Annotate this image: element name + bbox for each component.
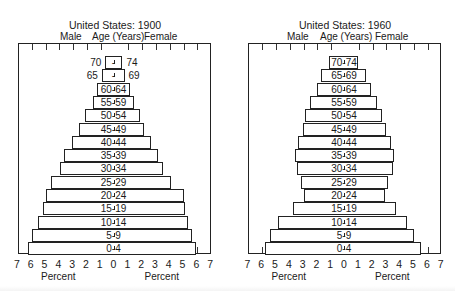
x-tick-label: 4 xyxy=(392,258,406,270)
x-tick-label: 0 xyxy=(107,258,121,270)
tick xyxy=(276,44,277,50)
cropped-caption xyxy=(0,286,455,291)
x-tick-label: 2 xyxy=(365,258,379,270)
age-label: 15-19 xyxy=(314,202,374,215)
age-header: Age (Years) xyxy=(320,31,372,42)
x-axis-label-male: Percent xyxy=(259,271,319,282)
age-label: 10-14 xyxy=(314,216,374,229)
female-header: Female xyxy=(144,31,177,42)
age-label: 55-59 xyxy=(84,96,144,109)
x-tick-label: 1 xyxy=(323,258,337,270)
population-pyramid-1960: United States: 1960MaleAge (Years)Female… xyxy=(230,0,455,291)
x-tick-label: 6 xyxy=(420,258,434,270)
x-tick-label: 3 xyxy=(148,258,162,270)
population-pyramid-1900: United States: 1900MaleAge (Years)Female… xyxy=(0,0,230,291)
tick xyxy=(317,44,318,50)
tick xyxy=(400,44,401,50)
tick xyxy=(262,44,263,50)
x-tick-label: 1 xyxy=(120,258,134,270)
age-label: 30-34 xyxy=(314,162,374,175)
chart-title: United States: 1960 xyxy=(230,19,455,31)
x-tick-label: 7 xyxy=(203,258,217,270)
age-label: 45-49 xyxy=(314,123,374,136)
tick xyxy=(197,44,198,50)
age-label: 15-19 xyxy=(84,202,144,215)
tick xyxy=(128,44,129,50)
age-label: 25-29 xyxy=(84,176,144,189)
female-header: Female xyxy=(375,31,408,42)
age-end-label: 69 xyxy=(129,69,140,82)
age-label: 40-44 xyxy=(84,136,144,149)
tick xyxy=(428,247,429,253)
tick xyxy=(142,44,143,50)
x-tick-label: 4 xyxy=(162,258,176,270)
x-tick-label: 3 xyxy=(65,258,79,270)
tick xyxy=(304,44,305,50)
x-tick-label: 1 xyxy=(351,258,365,270)
age-label: 10-14 xyxy=(84,216,144,229)
male-header: Male xyxy=(60,31,82,42)
tick xyxy=(359,44,360,50)
age-label: 20-24 xyxy=(314,189,374,202)
x-tick-label: 5 xyxy=(176,258,190,270)
x-tick-label: 6 xyxy=(189,258,203,270)
x-tick-label: 5 xyxy=(268,258,282,270)
tick xyxy=(156,44,157,50)
age-label: 5-9 xyxy=(314,229,374,242)
tick xyxy=(428,44,429,50)
tick xyxy=(373,44,374,50)
age-label: 0-4 xyxy=(84,242,144,255)
age-label: 35-39 xyxy=(84,149,144,162)
x-axis-label-male: Percent xyxy=(28,271,88,282)
x-tick-label: 1 xyxy=(93,258,107,270)
x-tick-label: 2 xyxy=(134,258,148,270)
age-label: 55-59 xyxy=(314,96,374,109)
tick xyxy=(73,44,74,50)
x-tick-label: 5 xyxy=(38,258,52,270)
age-start-label: 65 xyxy=(87,69,98,82)
tick xyxy=(101,44,102,50)
x-tick-label: 4 xyxy=(282,258,296,270)
age-label: 45-49 xyxy=(84,123,144,136)
x-tick-label: 6 xyxy=(24,258,38,270)
tick xyxy=(414,44,415,50)
age-label: 20-24 xyxy=(84,189,144,202)
x-tick-label: 0 xyxy=(337,258,351,270)
age-label: 5-9 xyxy=(84,229,144,242)
age-header: Age (Years) xyxy=(92,31,144,42)
age-label: 50-54 xyxy=(84,109,144,122)
age-label: 30-34 xyxy=(84,162,144,175)
x-tick-label: 3 xyxy=(296,258,310,270)
age-label: 70-74 xyxy=(314,56,374,69)
x-tick-label: 7 xyxy=(434,258,448,270)
x-tick-label: 6 xyxy=(254,258,268,270)
x-tick-label: 5 xyxy=(406,258,420,270)
age-label: 35-39 xyxy=(314,149,374,162)
tick xyxy=(32,44,33,50)
male-header: Male xyxy=(287,31,309,42)
x-tick-label: 4 xyxy=(51,258,65,270)
tick xyxy=(386,44,387,50)
age-label: 60-64 xyxy=(84,83,144,96)
tick xyxy=(87,44,88,50)
tick xyxy=(59,44,60,50)
tick xyxy=(331,44,332,50)
tick xyxy=(46,44,47,50)
age-start-label: 70 xyxy=(90,56,101,69)
age-label: 0-4 xyxy=(314,242,374,255)
age-label: 65-69 xyxy=(314,69,374,82)
tick xyxy=(262,247,263,253)
x-axis-label-female: Percent xyxy=(132,271,192,282)
tick xyxy=(290,44,291,50)
x-tick-label: 7 xyxy=(10,258,24,270)
x-tick-label: 3 xyxy=(378,258,392,270)
x-tick-label: 2 xyxy=(79,258,93,270)
age-label: 60-64 xyxy=(314,83,374,96)
age-label: 40-44 xyxy=(314,136,374,149)
tick xyxy=(184,44,185,50)
age-end-label: 74 xyxy=(126,56,137,69)
x-axis-label-female: Percent xyxy=(362,271,422,282)
tick xyxy=(197,247,198,253)
chart-title: United States: 1900 xyxy=(0,19,230,31)
x-tick-label: 7 xyxy=(240,258,254,270)
